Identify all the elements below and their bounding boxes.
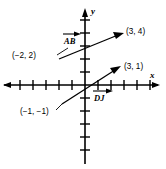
x-axis-arrowhead-right [152,82,160,88]
vector-dj-name-label: DJ [93,93,105,103]
leader-line-point-neg2-2 [57,48,68,55]
coordinate-plane-svg: y x AB DJ (−2, 2) (3, 4) (−1, −1) (3, 1) [0,0,166,169]
vector-dj-line [62,70,115,104]
x-axis-label: x [149,70,155,80]
y-axis-arrowhead-up [82,8,88,17]
vector-ab-name-label: AB [63,36,76,46]
vector-ab-arrowhead [113,32,124,39]
point-label-ab-end: (3, 4) [126,27,145,36]
leader-line-point-neg1-neg1 [56,104,62,110]
point-label-dj-end: (3, 1) [124,62,143,71]
x-axis-arrowhead-left [3,82,11,88]
y-axis-label: y [90,6,96,16]
vector-diagram-figure: y x AB DJ (−2, 2) (3, 4) (−1, −1) (3, 1) [0,0,166,169]
point-label-dj-start: (−1, −1) [20,107,49,116]
point-label-ab-start: (−2, 2) [12,51,36,60]
